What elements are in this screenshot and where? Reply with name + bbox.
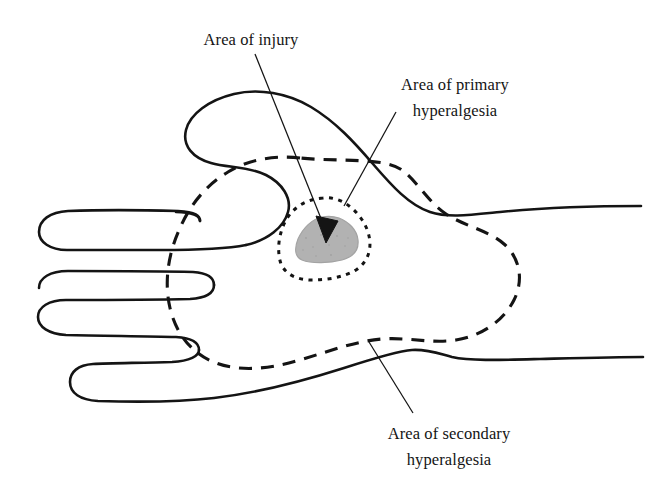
label-area-of-primary-hyperalgesia-line-2: hyperalgesia — [401, 98, 509, 124]
finger-index-to-middle — [39, 210, 246, 250]
label-area-of-injury: Area of injury — [204, 27, 299, 53]
hyperalgesia-hand-diagram: Area of injury Area of primary hyperalge… — [0, 0, 662, 489]
label-area-of-secondary-hyperalgesia: Area of secondary hyperalgesia — [388, 421, 511, 472]
label-area-of-primary-hyperalgesia-line-1: Area of primary — [401, 72, 509, 98]
label-area-of-injury-line-1: Area of injury — [204, 27, 299, 53]
label-area-of-secondary-hyperalgesia-line-2: hyperalgesia — [388, 447, 511, 473]
finger-little-and-lower-contour — [70, 350, 643, 402]
leader-line-secondary — [369, 342, 413, 413]
label-area-of-secondary-hyperalgesia-line-1: Area of secondary — [388, 421, 511, 447]
diagram-canvas — [0, 0, 662, 489]
leader-line-injury — [255, 54, 326, 231]
label-area-of-primary-hyperalgesia: Area of primary hyperalgesia — [401, 72, 509, 123]
finger-middle-to-ring — [38, 271, 214, 350]
secondary-hyperalgesia-boundary — [167, 157, 519, 368]
